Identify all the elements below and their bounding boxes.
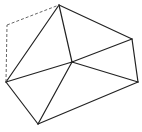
dashed-edge-EP	[6, 25, 7, 82]
geometric-diagram	[0, 0, 142, 132]
edge-CD	[38, 82, 138, 124]
edge-BO	[72, 39, 132, 62]
edge-EA	[6, 5, 59, 82]
edge-BC	[132, 39, 138, 82]
edge-DE	[6, 82, 38, 124]
edge-AO	[59, 5, 72, 62]
edge-AB	[59, 5, 132, 39]
dashed-edge-PA	[7, 5, 59, 25]
solid-edges	[6, 5, 138, 124]
edge-CO	[72, 62, 138, 82]
